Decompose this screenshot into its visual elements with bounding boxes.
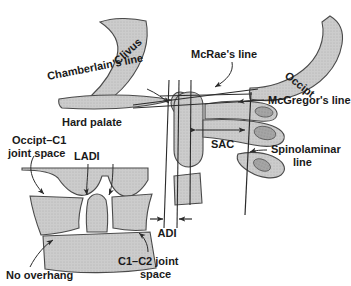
figure-container: Clivus Occipt [0, 0, 351, 286]
hard-palate-label: Hard palate [62, 116, 122, 128]
craniocervical-diagram: Clivus Occipt [0, 0, 351, 286]
c1-posterior-arch [205, 101, 277, 121]
mcgregors-line-label: McGregor's line [268, 94, 351, 106]
mcraes-line-label: McRae's line [191, 48, 257, 60]
spinolaminar-line-label-1: Spinolaminar [271, 143, 341, 155]
ladi-label: LADI [74, 150, 100, 162]
mcraes-leader [215, 62, 232, 87]
no-overhang-label: No overhang [6, 269, 73, 281]
spinolaminar-line-label-2: line [293, 156, 312, 168]
occiput-structure: Occipt [249, 16, 342, 101]
occipt-c1-leader [31, 156, 44, 194]
inset-ap-view: Occipt–C1 joint space LADI No overhang C… [6, 134, 179, 281]
adi-label: ADI [158, 227, 177, 239]
c1-c2-joint-label-2: space [140, 268, 171, 280]
occipt-c1-label-1: Occipt–C1 [12, 134, 66, 146]
occipt-c1-label-2: joint space [7, 147, 65, 159]
c3-spinous-process [237, 152, 284, 177]
c1-c2-joint-label-1: C1–C2 joint [118, 255, 179, 267]
spinolaminar-leader [250, 150, 267, 152]
sac-label: SAC [211, 138, 234, 150]
